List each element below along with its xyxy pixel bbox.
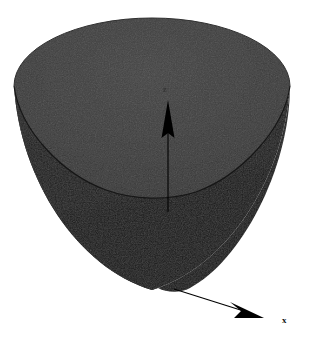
x-axis-arrow [174, 289, 264, 318]
figure-root: z x [0, 0, 324, 342]
paraboloid-surface-plot [0, 0, 324, 342]
x-axis-label: x [282, 316, 287, 325]
z-axis-label: z [163, 86, 167, 94]
